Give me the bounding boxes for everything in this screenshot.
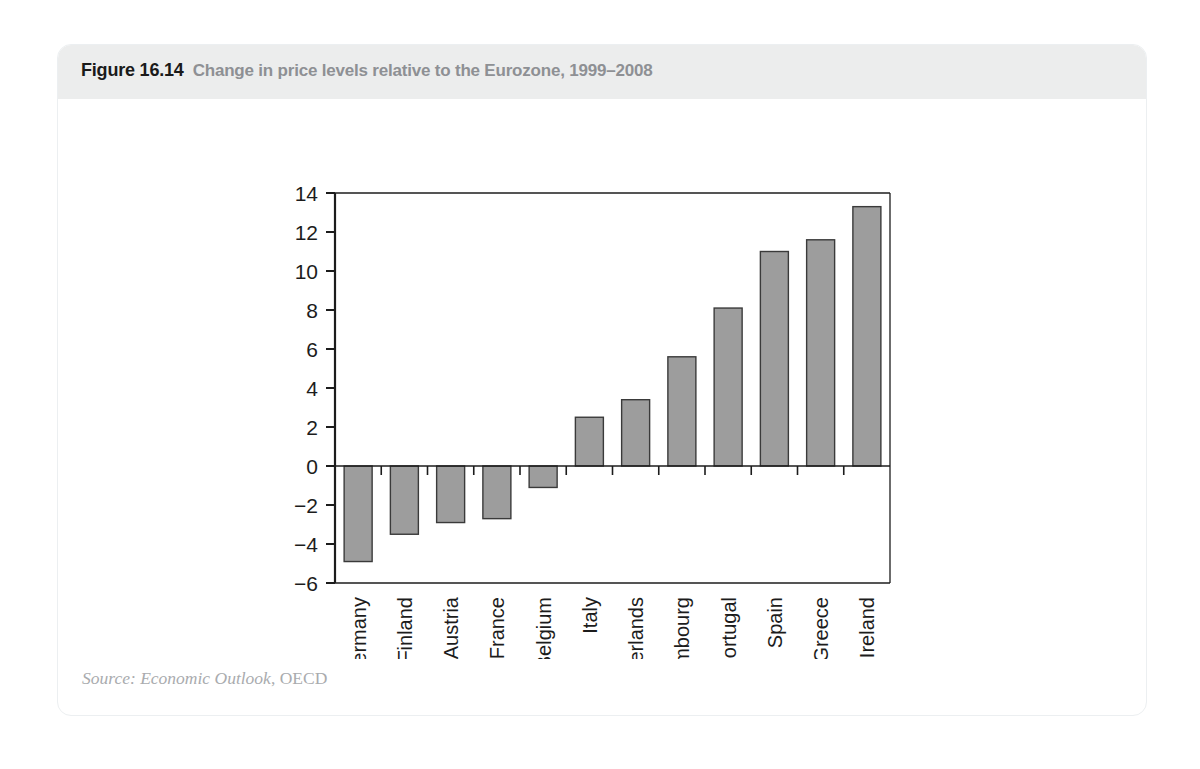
x-category-label-greece: Greece — [810, 597, 832, 659]
bar-finland — [390, 466, 418, 534]
source-organisation: , OECD — [271, 668, 327, 688]
bar-portugal — [714, 308, 742, 466]
source-publication: Source: Economic Outlook — [82, 668, 271, 688]
figure-number: Figure 16.14 — [81, 60, 184, 80]
figure-title: Change in price levels relative to the E… — [193, 61, 653, 80]
x-category-label-netherlands: Netherlands — [625, 597, 647, 659]
y-tick-label: 8 — [306, 299, 318, 322]
y-tick-label: 6 — [306, 338, 318, 361]
x-category-label-france: France — [486, 597, 508, 659]
y-tick-label: 2 — [306, 416, 318, 439]
bar-belgium — [529, 466, 557, 487]
y-tick-label: 12 — [295, 221, 318, 244]
bar-spain — [760, 252, 788, 467]
y-tick-label: 14 — [295, 182, 319, 205]
y-tick-label: 10 — [295, 260, 318, 283]
x-category-label-belgium: Belgium — [533, 597, 555, 659]
x-category-label-italy: Italy — [579, 597, 601, 634]
source-note: Source: Economic Outlook, OECD — [82, 668, 327, 689]
x-category-label-luxembourg: Luxembourg — [671, 597, 693, 659]
bar-austria — [437, 466, 465, 523]
y-tick-label: −2 — [294, 494, 318, 517]
x-axis-category-labels: GermanyFinlandAustriaFranceBelgiumItalyN… — [348, 596, 879, 659]
figure-card: Figure 16.14Change in price levels relat… — [57, 44, 1147, 716]
y-tick-label: 0 — [306, 455, 318, 478]
bar-chart-svg: −6−4−202468101214 GermanyFinlandAustriaF… — [58, 99, 1147, 659]
bars-group — [344, 207, 881, 562]
y-tick-label: −6 — [294, 572, 318, 595]
x-category-label-ireland: Ireland — [856, 597, 878, 658]
bar-italy — [575, 417, 603, 466]
x-category-label-austria: Austria — [440, 596, 462, 659]
x-category-label-finland: Finland — [394, 597, 416, 659]
figure-caption: Figure 16.14Change in price levels relat… — [81, 60, 653, 81]
bar-germany — [344, 466, 372, 562]
y-axis-tick-labels: −6−4−202468101214 — [294, 182, 318, 595]
x-category-label-germany: Germany — [348, 597, 370, 659]
bar-ireland — [853, 207, 881, 466]
y-tick-label: −4 — [294, 533, 318, 556]
chart-plot-area: −6−4−202468101214 GermanyFinlandAustriaF… — [58, 99, 1146, 659]
x-category-label-spain: Spain — [764, 597, 786, 648]
bar-luxembourg — [668, 357, 696, 466]
y-tick-label: 4 — [306, 377, 318, 400]
bar-greece — [807, 240, 835, 466]
bar-netherlands — [622, 400, 650, 466]
x-category-label-portugal: Portugal — [718, 597, 740, 659]
bar-france — [483, 466, 511, 519]
